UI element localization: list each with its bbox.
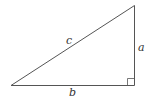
triangle	[11, 6, 135, 86]
triangle-figure: c a b	[0, 0, 153, 99]
right-triangle-diagram: c a b	[0, 0, 153, 99]
vertical-leg-label: a	[138, 41, 145, 54]
right-angle-marker	[128, 79, 135, 86]
hypotenuse-label: c	[66, 34, 72, 47]
horizontal-leg-label: b	[69, 86, 76, 99]
